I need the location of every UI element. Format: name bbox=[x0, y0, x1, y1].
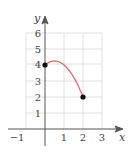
svg-text:4: 4 bbox=[35, 59, 41, 70]
svg-text:3: 3 bbox=[99, 132, 105, 143]
svg-text:1: 1 bbox=[61, 132, 67, 143]
endpoint-end bbox=[80, 94, 85, 99]
svg-text:−1: −1 bbox=[10, 132, 25, 143]
svg-text:2: 2 bbox=[80, 132, 86, 143]
x-axis-label: x bbox=[119, 131, 126, 144]
x-tick-labels: −1 1 2 3 x bbox=[10, 131, 126, 144]
svg-text:6: 6 bbox=[35, 28, 41, 39]
svg-text:1: 1 bbox=[35, 108, 41, 119]
y-axis-label: y bbox=[33, 12, 41, 25]
svg-text:2: 2 bbox=[35, 92, 41, 103]
svg-text:5: 5 bbox=[35, 44, 41, 55]
endpoint-start bbox=[42, 62, 47, 67]
y-tick-labels: 1 2 3 4 5 6 y bbox=[33, 12, 41, 119]
svg-text:3: 3 bbox=[35, 76, 41, 87]
function-graph: −1 1 2 3 x 1 2 3 4 5 6 y bbox=[0, 0, 132, 152]
